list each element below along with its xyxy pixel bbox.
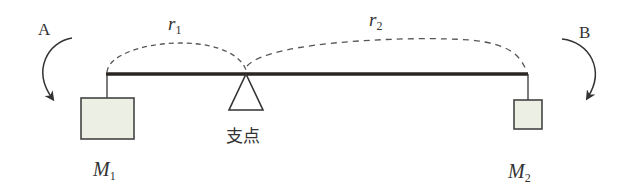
distance-r1-arc (107, 43, 246, 72)
label-fulcrum: 支点 (226, 126, 260, 146)
mass-m1 (81, 98, 134, 139)
label-r2: r2 (369, 9, 382, 33)
label-moment-a: A (38, 20, 51, 39)
moment-arrow-a-icon (43, 38, 72, 98)
mass-m2 (514, 100, 542, 129)
fulcrum-triangle (229, 74, 263, 110)
label-moment-b: B (579, 23, 590, 42)
distance-r2-arc (247, 39, 527, 72)
label-r1: r1 (168, 13, 181, 37)
label-m2: M2 (507, 160, 531, 185)
moment-arrow-b-icon (562, 39, 595, 97)
lever-diagram: r1 r2 支点 M1 M2 A B (0, 0, 631, 192)
label-m1: M1 (92, 158, 116, 183)
